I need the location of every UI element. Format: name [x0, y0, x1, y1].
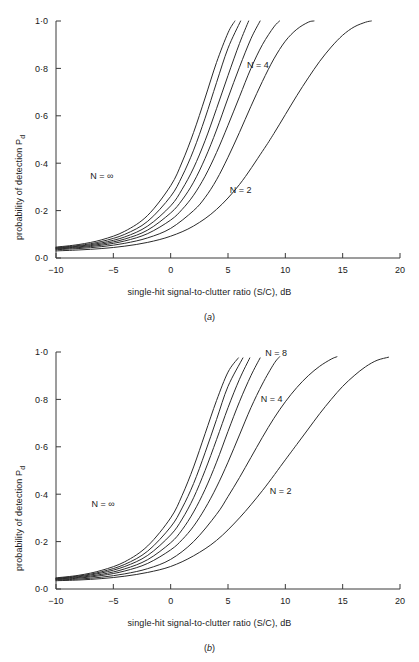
- y-tick-label: 0·0: [35, 584, 48, 594]
- plot-area-a: 0·00·20·40·60·81·0−10−505101520 N = 4N =…: [0, 0, 419, 331]
- panel-caption-b: (b): [0, 643, 419, 653]
- y-tick-label: 0·0: [35, 253, 48, 263]
- curve-n2: [56, 357, 389, 581]
- plot-area-b: 0·00·20·40·60·81·0−10−505101520 N = 8N =…: [0, 331, 419, 662]
- x-axis-label-b: single-hit signal-to-clutter ratio (S/C)…: [0, 618, 419, 628]
- y-tick-label: 0·2: [35, 537, 48, 547]
- axes-b: 0·00·20·40·60·81·0−10−505101520: [35, 347, 405, 606]
- panel-b: 0·00·20·40·60·81·0−10−505101520 N = 8N =…: [0, 331, 419, 662]
- x-tick-label: 20: [395, 265, 405, 275]
- curve-n8: [56, 357, 280, 580]
- curve-annotation: N = 4: [247, 60, 269, 70]
- y-axis-label-a: probability of detection Pd: [14, 135, 26, 240]
- caption-b-close: ): [212, 643, 215, 653]
- x-tick-label: 10: [280, 265, 290, 275]
- y-tick-label: 0·4: [35, 159, 48, 169]
- x-tick-label: 15: [338, 596, 348, 606]
- axis-lines: [56, 21, 400, 258]
- curve-annotation: N = ∞: [91, 499, 114, 509]
- panel-a: 0·00·20·40·60·81·0−10−505101520 N = 4N =…: [0, 0, 419, 331]
- y-axis-label-b: probability of detection Pd: [14, 466, 26, 571]
- curve-annotation: N = 8: [265, 348, 287, 358]
- curve-n24: [56, 358, 250, 579]
- curve-annotation: N = 4: [261, 394, 283, 404]
- y-tick-label: 0·6: [35, 442, 48, 452]
- y-axis-label-b-text: probability of detection P: [14, 470, 24, 571]
- x-tick-label: 5: [225, 265, 230, 275]
- y-tick-label: 1·0: [35, 347, 48, 357]
- panel-caption-a: (a): [0, 312, 419, 322]
- curve-n8: [56, 21, 260, 249]
- x-axis-label-a: single-hit signal-to-clutter ratio (S/C)…: [0, 287, 419, 297]
- curve-n12: [56, 358, 260, 579]
- curve-n48: [56, 358, 243, 578]
- x-tick-label: 15: [338, 265, 348, 275]
- y-tick-label: 0·4: [35, 490, 48, 500]
- curve-n4: [56, 357, 337, 580]
- x-tick-label: −10: [48, 265, 63, 275]
- caption-a-close: ): [212, 312, 215, 322]
- y-axis-label-a-sub: d: [19, 135, 26, 139]
- curves-a: [56, 21, 371, 251]
- figure-detection-curves: 0·00·20·40·60·81·0−10−505101520 N = 4N =…: [0, 0, 419, 662]
- curve-n12: [56, 21, 249, 248]
- y-tick-label: 0·6: [35, 111, 48, 121]
- curve-n4: [56, 21, 314, 250]
- y-tick-label: 0·2: [35, 206, 48, 216]
- y-axis-label-a-text: probability of detection P: [14, 139, 24, 240]
- y-tick-label: 1·0: [35, 16, 48, 26]
- y-tick-label: 0·8: [35, 395, 48, 405]
- curve-annotation: N = 2: [270, 486, 292, 496]
- x-tick-label: −10: [48, 596, 63, 606]
- curves-b: [56, 357, 389, 581]
- x-tick-label: 5: [225, 596, 230, 606]
- y-axis-label-b-sub: d: [19, 466, 26, 470]
- y-tick-label: 0·8: [35, 64, 48, 74]
- x-tick-label: −5: [108, 265, 118, 275]
- curve-n2: [56, 21, 371, 251]
- x-tick-label: 0: [168, 265, 173, 275]
- x-tick-label: 10: [280, 596, 290, 606]
- curve-n24: [56, 21, 241, 248]
- annotations-b: N = 8N = 4N = 2N = ∞: [91, 348, 291, 510]
- x-tick-label: −5: [108, 596, 118, 606]
- curve-annotation: N = 2: [230, 185, 252, 195]
- x-tick-label: 20: [395, 596, 405, 606]
- curve-annotation: N = ∞: [90, 171, 113, 181]
- x-tick-label: 0: [168, 596, 173, 606]
